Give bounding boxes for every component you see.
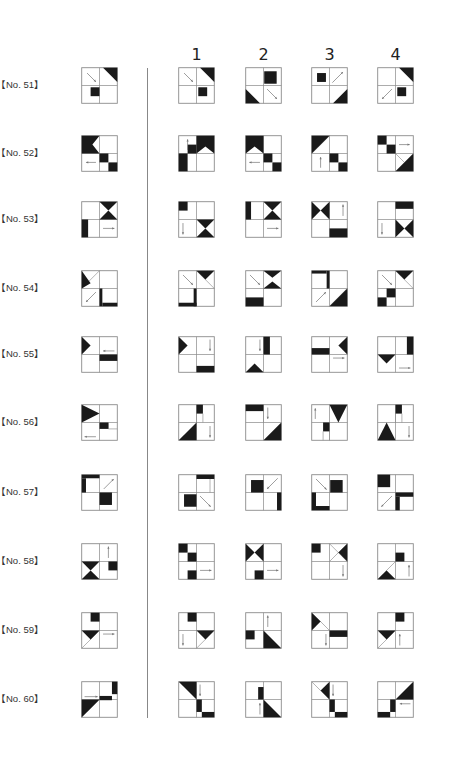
answer-option-4[interactable] <box>377 681 414 718</box>
question-figure <box>81 201 118 238</box>
answer-option-3[interactable] <box>311 67 348 104</box>
question-number-label: 【No. 55】 <box>0 346 44 360</box>
answer-option-1[interactable] <box>178 336 215 373</box>
question-figure <box>81 404 118 441</box>
answer-option-3[interactable] <box>311 474 348 511</box>
answer-option-1[interactable] <box>178 681 215 718</box>
question-figure <box>81 67 118 104</box>
question-row: 【No. 52】 <box>0 135 453 175</box>
question-row: 【No. 57】 <box>0 474 453 514</box>
question-figure <box>81 270 118 307</box>
question-number-label: 【No. 54】 <box>0 280 44 294</box>
question-row: 【No. 60】 <box>0 681 453 721</box>
question-number-label: 【No. 60】 <box>0 691 44 705</box>
answer-option-1[interactable] <box>178 612 215 649</box>
answer-option-1[interactable] <box>178 543 215 580</box>
answer-option-4[interactable] <box>377 404 414 441</box>
column-header-2: 2 <box>245 45 282 64</box>
answer-option-4[interactable] <box>377 67 414 104</box>
answer-option-4[interactable] <box>377 270 414 307</box>
answer-option-3[interactable] <box>311 201 348 238</box>
answer-option-4[interactable] <box>377 201 414 238</box>
question-row: 【No. 51】 <box>0 67 453 107</box>
answer-option-1[interactable] <box>178 270 215 307</box>
answer-option-4[interactable] <box>377 336 414 373</box>
question-number-label: 【No. 56】 <box>0 414 44 428</box>
question-figure <box>81 612 118 649</box>
answer-option-2[interactable] <box>245 270 282 307</box>
question-figure <box>81 681 118 718</box>
question-row: 【No. 59】 <box>0 612 453 652</box>
answer-option-3[interactable] <box>311 612 348 649</box>
answer-option-4[interactable] <box>377 612 414 649</box>
question-number-label: 【No. 57】 <box>0 484 44 498</box>
answer-option-1[interactable] <box>178 201 215 238</box>
answer-option-4[interactable] <box>377 135 414 172</box>
question-row: 【No. 54】 <box>0 270 453 310</box>
question-figure <box>81 135 118 172</box>
answer-option-2[interactable] <box>245 543 282 580</box>
answer-option-4[interactable] <box>377 474 414 511</box>
question-figure <box>81 336 118 373</box>
answer-option-1[interactable] <box>178 474 215 511</box>
question-row: 【No. 56】 <box>0 404 453 444</box>
answer-option-3[interactable] <box>311 336 348 373</box>
answer-option-1[interactable] <box>178 67 215 104</box>
answer-option-4[interactable] <box>377 543 414 580</box>
answer-option-2[interactable] <box>245 201 282 238</box>
question-number-label: 【No. 53】 <box>0 211 44 225</box>
answer-option-2[interactable] <box>245 336 282 373</box>
answer-option-2[interactable] <box>245 404 282 441</box>
question-row: 【No. 53】 <box>0 201 453 241</box>
answer-option-1[interactable] <box>178 135 215 172</box>
answer-option-2[interactable] <box>245 135 282 172</box>
answer-option-3[interactable] <box>311 543 348 580</box>
question-figure <box>81 543 118 580</box>
question-number-label: 【No. 51】 <box>0 77 44 91</box>
answer-option-3[interactable] <box>311 135 348 172</box>
column-header-4: 4 <box>377 45 414 64</box>
answer-option-2[interactable] <box>245 474 282 511</box>
question-number-label: 【No. 52】 <box>0 145 44 159</box>
answer-option-1[interactable] <box>178 404 215 441</box>
question-number-label: 【No. 58】 <box>0 553 44 567</box>
column-header-3: 3 <box>311 45 348 64</box>
answer-option-2[interactable] <box>245 67 282 104</box>
answer-option-3[interactable] <box>311 270 348 307</box>
question-row: 【No. 58】 <box>0 543 453 583</box>
column-header-1: 1 <box>178 45 215 64</box>
question-number-label: 【No. 59】 <box>0 622 44 636</box>
answer-option-3[interactable] <box>311 404 348 441</box>
answer-option-2[interactable] <box>245 681 282 718</box>
question-row: 【No. 55】 <box>0 336 453 376</box>
answer-option-3[interactable] <box>311 681 348 718</box>
question-figure <box>81 474 118 511</box>
answer-option-2[interactable] <box>245 612 282 649</box>
